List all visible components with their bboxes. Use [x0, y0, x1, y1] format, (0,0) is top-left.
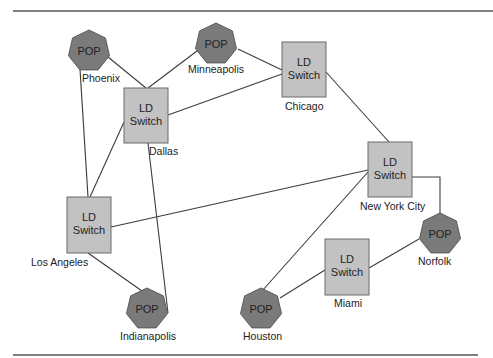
edge-minneapolis-chicago [238, 49, 282, 70]
pop-node-phoenix: POP [69, 30, 110, 70]
switch-label-line1: LD [383, 156, 397, 168]
pop-node-houston: POP [241, 288, 282, 328]
city-label-chicago: Chicago [285, 100, 324, 112]
pop-node-indianapolis: POP [127, 288, 168, 328]
switch-label-line1: LD [340, 253, 354, 265]
edge-miami-houston [280, 270, 325, 298]
city-label-houston: Houston [243, 330, 282, 342]
city-label-los-angeles: Los Angeles [31, 256, 88, 268]
city-label-norfolk: Norfolk [418, 255, 452, 267]
switch-label-line2: Switch [130, 115, 162, 127]
switch-label-line2: Switch [288, 69, 320, 81]
pop-node-norfolk: POP [420, 213, 461, 253]
switch-label-line1: LD [297, 56, 311, 68]
switch-node-chicago: LD Switch [282, 42, 326, 97]
pop-label: POP [77, 45, 100, 57]
pop-label: POP [249, 303, 272, 315]
city-label-dallas: Dallas [149, 145, 178, 157]
switch-node-los-angeles: LD Switch [67, 197, 111, 253]
switch-label-line2: Switch [374, 169, 406, 181]
edge-phoenix-los-angeles [80, 69, 88, 197]
city-label-new-york-city: New York City [360, 200, 426, 212]
edge-los-angeles-new-york-city [111, 170, 368, 227]
pop-node-minneapolis: POP [196, 23, 237, 63]
edge-norfolk-miami [369, 239, 419, 268]
pop-label: POP [135, 303, 158, 315]
edge-dallas-indianapolis [148, 143, 168, 313]
switch-label-line2: Switch [73, 224, 105, 236]
edge-dallas-los-angeles [90, 122, 124, 197]
switch-node-dallas: LD Switch [124, 88, 168, 143]
city-label-indianapolis: Indianapolis [120, 330, 176, 342]
edge-los-angeles-indianapolis [88, 253, 142, 291]
city-label-miami: Miami [334, 297, 362, 309]
pop-label: POP [204, 38, 227, 50]
switch-label-line1: LD [139, 102, 153, 114]
switch-node-miami: LD Switch [325, 239, 369, 295]
city-label-minneapolis: Minneapolis [188, 63, 244, 75]
switch-label-line2: Switch [331, 266, 363, 278]
switch-node-new-york-city: LD Switch [368, 142, 412, 197]
pop-label: POP [428, 228, 451, 240]
edge-dallas-chicago [168, 74, 282, 115]
network-diagram: POP Phoenix POP Minneapolis POP Norfolk … [0, 0, 493, 358]
switch-label-line1: LD [82, 211, 96, 223]
edge-chicago-new-york-city [326, 72, 389, 142]
city-label-phoenix: Phoenix [82, 72, 121, 84]
